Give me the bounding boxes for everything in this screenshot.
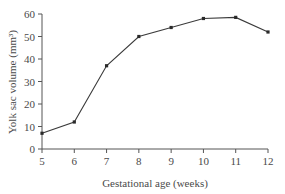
line-chart: 0102030405060 56789101112 Gestational ag… <box>0 0 285 194</box>
data-point-marker <box>105 64 108 67</box>
y-tick-label: 20 <box>24 98 36 110</box>
y-tick-label: 40 <box>24 53 36 65</box>
x-tick-label: 7 <box>104 155 110 167</box>
x-tick-label: 9 <box>168 155 174 167</box>
data-point-marker <box>73 120 76 123</box>
y-tick-label: 30 <box>24 76 36 88</box>
data-point-marker <box>202 17 205 20</box>
data-point-marker <box>137 35 140 38</box>
y-tick-label: 10 <box>24 121 36 133</box>
x-tick-label: 11 <box>230 155 241 167</box>
data-point-marker <box>170 26 173 29</box>
data-point-marker <box>266 30 269 33</box>
data-point-marker <box>234 16 237 19</box>
y-tick-label: 60 <box>24 8 36 20</box>
data-point-marker <box>40 132 43 135</box>
y-axis: 0102030405060 <box>24 8 42 155</box>
x-tick-label: 6 <box>72 155 78 167</box>
y-tick-label: 0 <box>30 143 36 155</box>
y-tick-label: 50 <box>24 31 36 43</box>
x-tick-label: 8 <box>136 155 142 167</box>
x-axis-title: Gestational age (weeks) <box>102 177 208 190</box>
x-tick-label: 12 <box>263 155 274 167</box>
series-line <box>42 17 268 133</box>
x-axis: 56789101112 <box>39 149 273 167</box>
y-axis-title: Yolk sac volume (mm³) <box>6 30 19 134</box>
x-tick-label: 5 <box>39 155 45 167</box>
data-series <box>40 16 269 135</box>
x-tick-label: 10 <box>198 155 210 167</box>
